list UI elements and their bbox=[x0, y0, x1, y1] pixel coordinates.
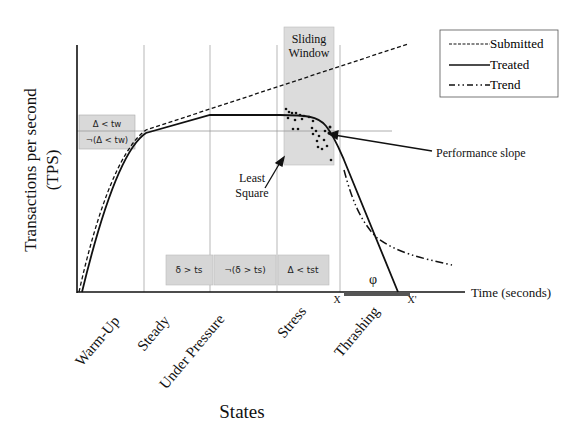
performance-slope-label: Performance slope bbox=[436, 146, 526, 160]
performance-states-diagram: Submitted Treated Trend Transactions per… bbox=[0, 0, 583, 445]
phi-label: φ bbox=[369, 272, 377, 287]
performance-slope-arrow bbox=[334, 135, 432, 151]
x-end-label: X' bbox=[407, 294, 416, 305]
least-square-label: Least bbox=[239, 171, 266, 185]
state-warmup: Warm-Up bbox=[72, 313, 123, 369]
y-axis-label-unit: (TPS) bbox=[43, 150, 62, 191]
x-start-label: X bbox=[333, 294, 341, 305]
condition-tw: Δ < tw bbox=[93, 119, 122, 129]
least-square-label-2: Square bbox=[235, 186, 268, 200]
legend-submitted-label: Submitted bbox=[490, 36, 544, 51]
legend-treated-label: Treated bbox=[490, 57, 530, 72]
thrashing-interval-bar bbox=[344, 292, 410, 296]
sliding-window-label: Sliding bbox=[292, 32, 327, 46]
legend-trend-label: Trend bbox=[490, 77, 521, 92]
condition-not-ts: ¬(δ > ts) bbox=[224, 265, 266, 275]
state-stress: Stress bbox=[274, 303, 309, 341]
condition-ts: δ > ts bbox=[176, 265, 203, 275]
state-thrashing: Thrashing bbox=[331, 303, 383, 360]
y-axis-label: Transactions per second bbox=[21, 88, 40, 252]
states-title: States bbox=[219, 401, 264, 422]
condition-not-tw: ¬(Δ < tw) bbox=[86, 135, 128, 145]
sliding-window-label-2: Window bbox=[289, 46, 330, 60]
trend-curve bbox=[344, 170, 452, 265]
x-axis-label: Time (seconds) bbox=[471, 285, 551, 300]
state-steady: Steady bbox=[134, 312, 173, 354]
condition-tst: Δ < tst bbox=[287, 265, 319, 275]
legend: Submitted Treated Trend bbox=[440, 30, 558, 97]
least-square-arrow bbox=[265, 161, 281, 188]
